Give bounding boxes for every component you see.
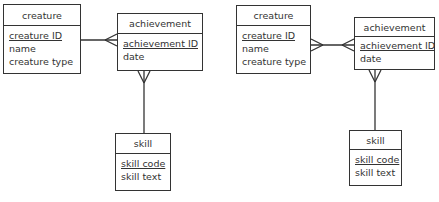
entity-title: achievement bbox=[118, 14, 202, 34]
attribute-primary-key: creature ID bbox=[242, 29, 310, 42]
attribute-primary-key: achievement ID bbox=[360, 39, 434, 52]
entity-title: skill bbox=[350, 131, 401, 150]
entity-title: skill bbox=[116, 134, 170, 154]
attribute: creature type bbox=[242, 55, 310, 68]
entity-achievement-right: achievement achievement ID date bbox=[354, 17, 435, 70]
attribute: name bbox=[9, 42, 80, 55]
relationship-creature-achievement-right bbox=[311, 39, 354, 51]
relationship-creature-achievement-left bbox=[81, 34, 117, 46]
attribute: skill text bbox=[121, 170, 170, 183]
attribute: date bbox=[123, 50, 202, 63]
attribute: name bbox=[242, 42, 310, 55]
attribute-primary-key: achievement ID bbox=[123, 37, 202, 50]
attribute: date bbox=[360, 52, 434, 65]
attribute-primary-key: skill code bbox=[355, 153, 401, 166]
entity-creature-left: creature creature ID name creature type bbox=[3, 4, 81, 74]
attribute-primary-key: skill code bbox=[121, 157, 170, 170]
attribute-primary-key: creature ID bbox=[9, 29, 80, 42]
er-diagrams: creature creature ID name creature type … bbox=[0, 0, 439, 202]
entity-skill-left: skill skill code skill text bbox=[115, 133, 171, 191]
entity-title: achievement bbox=[355, 18, 434, 37]
entity-achievement-left: achievement achievement ID date bbox=[117, 13, 203, 71]
relationship-achievement-skill-right bbox=[369, 70, 381, 130]
attribute: creature type bbox=[9, 55, 80, 68]
entity-title: creature bbox=[4, 5, 80, 26]
attribute: skill text bbox=[355, 166, 401, 179]
entity-title: creature bbox=[237, 6, 310, 26]
relationship-achievement-skill-left bbox=[138, 71, 150, 133]
entity-creature-right: creature creature ID name creature type bbox=[236, 5, 311, 74]
entity-skill-right: skill skill code skill text bbox=[349, 130, 402, 186]
